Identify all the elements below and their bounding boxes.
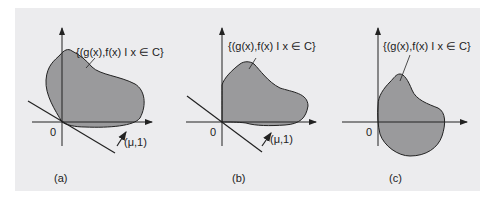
set-region [222, 62, 308, 126]
origin-label: 0 [366, 126, 372, 138]
set-label: {(g(x),f(x) I x ∈ C} [383, 40, 471, 52]
subfigure-a: {(g(x),f(x) I x ∈ C} 0 (μ,1) (a) [28, 28, 164, 184]
subfigure-b: {(g(x),f(x) I x ∈ C} 0 (μ,1) (b) [186, 28, 316, 184]
set-region [378, 74, 445, 156]
caption: (c) [389, 172, 402, 184]
set-label: {(g(x),f(x) I x ∈ C} [76, 46, 164, 58]
origin-label: 0 [50, 126, 56, 138]
subfigure-c: {(g(x),f(x) I x ∈ C} 0 (c) [342, 28, 471, 184]
origin-label: 0 [210, 126, 216, 138]
caption: (b) [232, 172, 245, 184]
vector-label: (μ,1) [270, 133, 293, 145]
diagram-canvas: {(g(x),f(x) I x ∈ C} 0 (μ,1) (a) {(g(x),… [0, 0, 495, 203]
vector-label: (μ,1) [124, 136, 147, 148]
set-region [46, 50, 144, 128]
caption: (a) [54, 172, 67, 184]
set-label: {(g(x),f(x) I x ∈ C} [228, 40, 316, 52]
